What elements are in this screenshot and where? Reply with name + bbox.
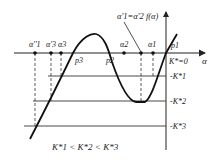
alpha3-prime-label: α'3 xyxy=(46,40,56,49)
alpha-axis-label: α xyxy=(202,56,207,66)
condition-label: K*1 < K*2 < K*3 xyxy=(51,142,119,152)
alpha3-label: α3 xyxy=(58,40,66,49)
p2-label: p2 xyxy=(105,56,114,65)
dashed-lines xyxy=(35,53,153,126)
alpha1-label: α1 xyxy=(148,40,156,49)
k3-label: -K*3 xyxy=(170,122,186,131)
k2-label: -K*2 xyxy=(170,97,186,106)
root-locus-diagram: α'1=α'2 f(α) α''1 α'3 α3 α2 α1 p3 p2 p1 … xyxy=(0,0,221,163)
p1-label: p1 xyxy=(170,41,179,50)
function-curve xyxy=(30,34,177,139)
zero-line-label: K*=0 xyxy=(168,57,188,66)
annotation-label: α'1=α'2 f(α) xyxy=(117,11,159,21)
k1-label: -K*1 xyxy=(170,72,186,81)
alpha1-double-prime-label: α''1 xyxy=(29,40,41,49)
p3-label: p3 xyxy=(74,56,83,65)
alpha2-label: α2 xyxy=(120,40,128,49)
